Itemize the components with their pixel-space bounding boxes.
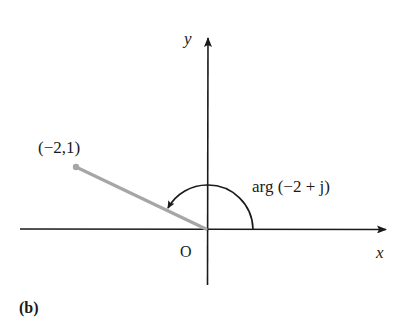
y-axis <box>208 38 209 285</box>
angle-label: arg (−2 + j) <box>252 177 330 196</box>
panel-label: (b) <box>19 299 39 317</box>
point-marker <box>73 164 79 170</box>
argand-diagram: y x O (−2,1) arg (−2 + j) (b) <box>0 0 413 331</box>
y-axis-label: y <box>182 29 192 48</box>
vector-line <box>76 167 206 229</box>
point-label: (−2,1) <box>38 138 80 157</box>
x-axis-label: x <box>375 243 384 262</box>
origin-label: O <box>180 243 192 260</box>
angle-arc-icon <box>168 185 253 229</box>
